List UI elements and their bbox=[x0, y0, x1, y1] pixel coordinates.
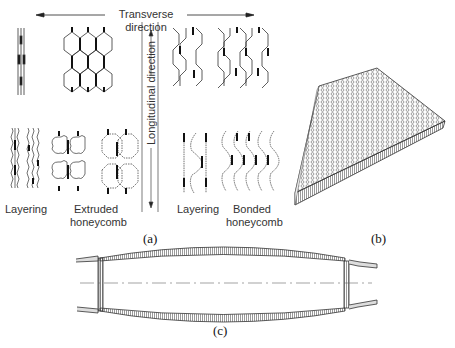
longitudinal-direction-label: Longitudinal direction bbox=[145, 41, 157, 145]
layering-bottom-right bbox=[183, 133, 207, 193]
bonded-honeycomb-top bbox=[218, 27, 269, 88]
diagram-canvas bbox=[0, 0, 455, 348]
extruded-honeycomb-bottom bbox=[52, 129, 138, 194]
extruded-honeycomb-top bbox=[64, 27, 112, 92]
caption-a: (a) bbox=[143, 231, 157, 247]
layering-top-left bbox=[18, 28, 25, 95]
layering-bottom-left bbox=[11, 128, 39, 188]
layering-label-right: Layering bbox=[176, 203, 220, 216]
cross-section-c bbox=[76, 247, 377, 322]
layering-label-left: Layering bbox=[4, 203, 48, 216]
caption-b: (b) bbox=[371, 231, 386, 247]
honeycomb-panel-3d bbox=[295, 68, 445, 205]
extruded-honeycomb-label: Extruded honeycomb bbox=[70, 203, 122, 229]
layering-top-right bbox=[173, 27, 202, 86]
bonded-honeycomb-bottom bbox=[222, 131, 279, 191]
caption-c: (c) bbox=[213, 323, 227, 339]
transverse-direction-label: Transverse direction bbox=[105, 8, 187, 34]
bonded-honeycomb-label: Bonded honeycomb bbox=[226, 203, 278, 229]
